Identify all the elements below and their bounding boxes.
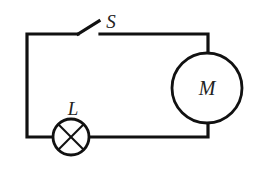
lamp-label: L: [67, 98, 79, 119]
circuit-diagram: M L S: [0, 0, 261, 169]
switch-blade: [78, 21, 99, 34]
switch-label: S: [106, 11, 116, 32]
lamp-symbol: L: [53, 98, 89, 155]
motor-symbol: M: [172, 53, 242, 123]
wire-top-right: [100, 34, 208, 53]
wire-bottom-right: [89, 123, 208, 137]
motor-label: M: [198, 77, 217, 99]
